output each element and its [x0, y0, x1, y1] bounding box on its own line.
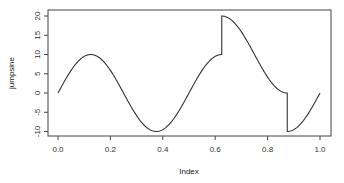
x-tick-label: 0.2 [105, 145, 117, 154]
y-tick-label: 20 [33, 11, 42, 20]
x-tick-label: 0.6 [210, 145, 222, 154]
y-tick-label: 15 [33, 30, 42, 39]
y-axis-label: jumpsine [7, 56, 16, 90]
y-tick-label: 0 [33, 90, 42, 95]
x-tick-label: 0.4 [157, 145, 169, 154]
x-axis-label: Index [179, 167, 199, 176]
x-tick-label: 0.8 [262, 145, 274, 154]
plot-frame [48, 10, 331, 136]
x-tick-label: 0.0 [52, 145, 64, 154]
chart: 0.00.20.40.60.81.0 -10-505101520 Index j… [0, 0, 344, 183]
y-tick-label: -5 [33, 108, 42, 116]
x-axis: 0.00.20.40.60.81.0 [52, 136, 326, 154]
y-tick-label: 10 [33, 50, 42, 59]
y-tick-label: 5 [33, 71, 42, 76]
jumpsine-line [58, 16, 320, 132]
y-axis: -10-505101520 [33, 11, 48, 137]
x-tick-label: 1.0 [314, 145, 326, 154]
y-tick-label: -10 [33, 125, 42, 137]
